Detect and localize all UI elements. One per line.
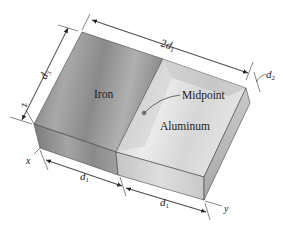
ext-line-d3-bottom: [10, 117, 32, 124]
dim-line-d2: [254, 72, 260, 92]
ext-line-d1-al-right: [205, 203, 210, 220]
dim-label-d1-aluminum: d1: [160, 196, 170, 210]
axis-label-x: x: [25, 155, 31, 166]
ext-line-2d1-left: [82, 14, 90, 30]
d2-leader: [256, 74, 266, 82]
aluminum-label: Aluminum: [160, 120, 210, 132]
x-axis-line: [34, 148, 40, 154]
dim-label-2d1: 2d1: [159, 36, 178, 54]
midpoint-label: Midpoint: [182, 89, 226, 102]
block-diagram: Iron Aluminum Midpoint 2d1 d3 d2 d1 d1 z…: [0, 0, 283, 232]
axis-label-z: z: [18, 103, 29, 108]
dim-label-d1-iron: d1: [80, 170, 90, 184]
dim-label-d3: d3: [37, 67, 54, 82]
ext-line-2d1-right: [246, 62, 253, 80]
z-axis-line: [26, 110, 34, 124]
dim-label-d2: d2: [266, 68, 276, 82]
ext-line-d1-mid: [120, 177, 126, 196]
iron-label: Iron: [94, 88, 113, 100]
y-axis-line: [205, 201, 222, 206]
axis-label-y: y: [223, 203, 229, 214]
